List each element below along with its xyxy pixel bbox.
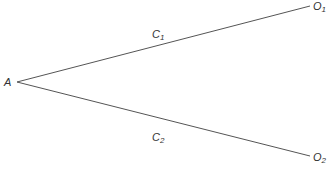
node-o2-label: O2	[313, 152, 326, 165]
edge-c1-label: C1	[152, 29, 164, 42]
node-a-label: A	[4, 77, 11, 88]
node-o1-label: O1	[313, 1, 326, 14]
edge-c2-label: C2	[152, 132, 164, 145]
diagram-canvas	[0, 0, 330, 173]
edge-a-o1	[17, 6, 310, 82]
